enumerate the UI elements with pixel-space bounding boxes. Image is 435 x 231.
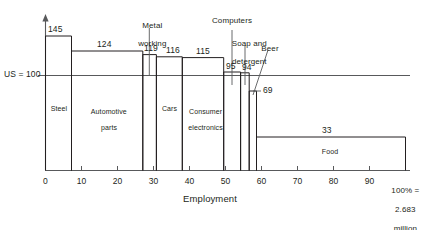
value-label-steel: 145 (48, 25, 62, 34)
bar-cars (156, 57, 182, 171)
bar-soap-and-detergent (241, 73, 250, 171)
bar-label-automotive-parts-line1: Automotive (91, 108, 127, 115)
bar-computers (224, 72, 241, 171)
callout-label-soap-line2: detergent (232, 57, 267, 66)
x-tick-label-60: 60 (252, 177, 272, 186)
x-tick-label-30: 30 (144, 177, 164, 186)
x-tick-label-80: 80 (324, 177, 344, 186)
value-label-automotive-parts: 124 (97, 40, 111, 49)
bar-label-consumer-electronics: Consumer electronics (183, 100, 224, 132)
bar-steel (46, 36, 72, 171)
bar-label-automotive-parts-line2: parts (101, 124, 117, 131)
callout-label-metal-working: Metal working (127, 12, 173, 48)
x-axis-total-note: 100% = 2.683 million employees (372, 176, 434, 230)
x-tick-label-0: 0 (36, 177, 56, 186)
bar-label-consumer-electronics-line2: electronics (188, 124, 223, 131)
bar-label-consumer-electronics-line1: Consumer (189, 108, 222, 115)
bar-beer (249, 91, 256, 171)
x-tick-label-40: 40 (180, 177, 200, 186)
bar-label-cars: Cars (157, 105, 182, 113)
x-axis-total-note-line3: million (394, 224, 417, 231)
x-axis (46, 166, 411, 171)
bar-label-automotive-parts: Automotive parts (72, 100, 142, 132)
reference-line-label: US = 100 (4, 70, 38, 79)
callout-label-beer: Beer (256, 44, 284, 53)
value-label-beer: 69 (263, 86, 273, 95)
bar-label-food: Food (300, 148, 360, 156)
value-label-food: 33 (322, 126, 332, 135)
x-axis-total-note-line2: 2.683 (395, 205, 416, 214)
x-axis-title: Employment (150, 194, 270, 203)
callout-label-metal-working-line2: working (138, 39, 166, 48)
x-tick-label-50: 50 (216, 177, 236, 186)
x-tick-label-70: 70 (288, 177, 308, 186)
x-tick-label-10: 10 (72, 177, 92, 186)
value-label-consumer-electronics: 115 (196, 47, 210, 56)
x-tick-label-20: 20 (108, 177, 128, 186)
callout-label-metal-working-line1: Metal (142, 21, 162, 30)
callout-label-computers: Computers (205, 16, 259, 25)
bar-label-steel: Steel (46, 105, 72, 113)
x-axis-total-note-line1: 100% = (391, 186, 419, 195)
